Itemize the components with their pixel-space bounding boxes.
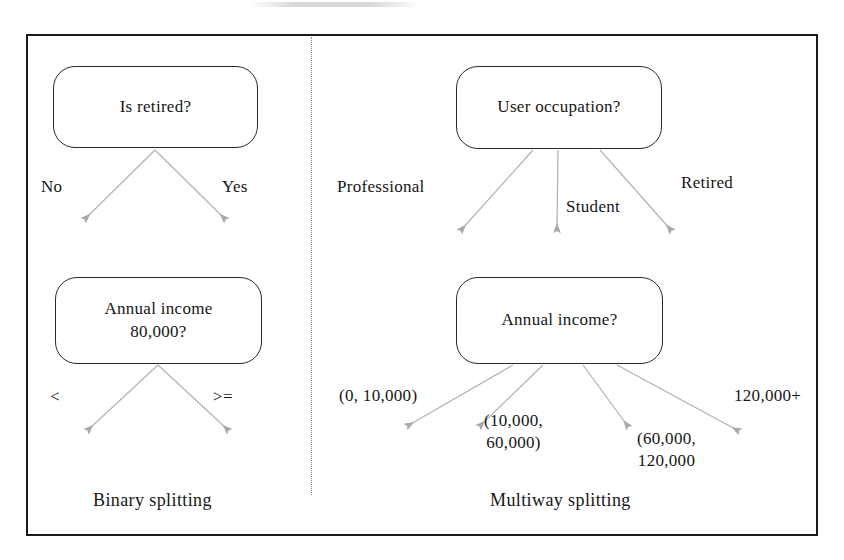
caption-multiway-splitting: Multiway splitting	[490, 490, 631, 511]
edge-label-greater-equal: >=	[213, 386, 233, 408]
edge-label-student: Student	[566, 196, 620, 218]
edge-label-professional: Professional	[337, 176, 425, 198]
edge-label-no: No	[41, 176, 62, 198]
edge-label-income-range-3: (60,000, 120,000	[637, 428, 696, 472]
edge-label-retired: Retired	[681, 172, 733, 194]
node-is-retired-label: Is retired?	[112, 96, 200, 118]
edge-label-income-range-4: 120,000+	[734, 385, 801, 407]
panel-divider	[311, 37, 312, 495]
node-user-occupation-label: User occupation?	[489, 96, 628, 118]
edge-label-income-range-2: (10,000, 60,000)	[484, 410, 543, 454]
figure-canvas: Is retired? Annual income 80,000? User o…	[0, 0, 844, 560]
node-annual-income-multiway[interactable]: Annual income?	[456, 277, 663, 364]
edge-label-income-range-1: (0, 10,000)	[339, 385, 417, 407]
node-annual-income-binary[interactable]: Annual income 80,000?	[55, 277, 262, 364]
edge-label-less-than: <	[50, 386, 60, 408]
node-annual-income-binary-label: Annual income 80,000?	[96, 298, 220, 343]
scan-artifact	[250, 2, 420, 7]
node-is-retired[interactable]: Is retired?	[53, 66, 258, 148]
edge-label-yes: Yes	[222, 176, 248, 198]
node-annual-income-multiway-label: Annual income?	[493, 309, 625, 331]
caption-binary-splitting: Binary splitting	[93, 490, 212, 511]
node-user-occupation[interactable]: User occupation?	[456, 66, 662, 149]
